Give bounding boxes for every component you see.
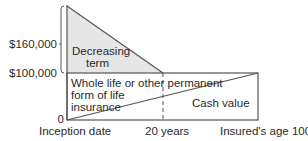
decreasing-term-label-line2: term: [86, 57, 109, 70]
coverage-bracket: [61, 6, 64, 73]
x-label-insured-age-100: Insured's age 100: [220, 125, 308, 138]
x-label-inception-date: Inception date: [39, 125, 111, 138]
x-label-20-years: 20 years: [145, 125, 189, 138]
whole-life-label-line3: insurance: [71, 101, 121, 114]
y-label-100000: $100,000: [0, 67, 57, 80]
y-label-160000: $160,000: [0, 38, 57, 51]
cash-value-label: Cash value: [192, 97, 250, 110]
